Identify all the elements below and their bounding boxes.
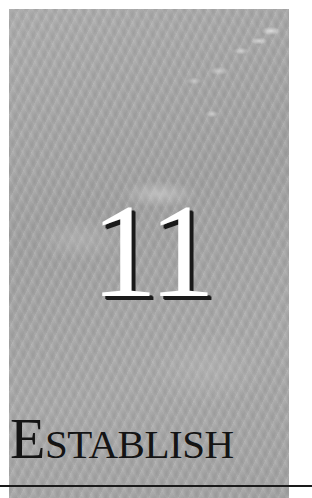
- chapter-title-rest: STABLISH: [45, 406, 234, 471]
- chapter-title-initial: E: [10, 406, 45, 471]
- chapter-number: 11: [76, 184, 226, 318]
- horizontal-rule: [0, 485, 312, 487]
- chapter-title: ESTABLISH: [10, 410, 234, 468]
